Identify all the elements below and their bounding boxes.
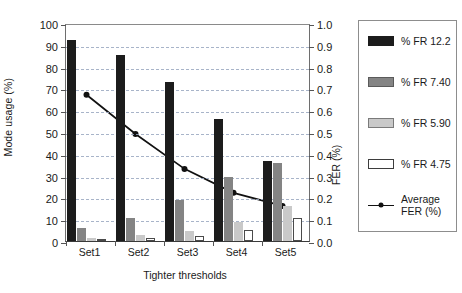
bar-set2-series-2 [136, 235, 146, 241]
y-axis-right-tick-label: 0.5 [317, 129, 332, 140]
average-fer-point-set1 [84, 92, 90, 98]
y-axis-left-tick-label: 60 [46, 107, 58, 118]
y-axis-right-tick-label: 0.1 [317, 216, 332, 227]
legend-label-0: % FR 12.2 [401, 35, 451, 47]
y-axis-left-tick-label: 10 [46, 216, 58, 227]
y-axis-left-tick [61, 90, 66, 91]
y-axis-right-tick [309, 178, 314, 179]
y-axis-left-tick [61, 221, 66, 222]
gridline [66, 69, 309, 70]
gridline [66, 47, 309, 48]
y-axis-left-tick-label: 0 [52, 238, 58, 249]
y-axis-right-tick [309, 90, 314, 91]
y-axis-left-tick-label: 80 [46, 63, 58, 74]
bar-set2-series-3 [146, 238, 156, 241]
bar-set3-series-2 [185, 231, 195, 241]
y-axis-right-tick-label: 0.2 [317, 194, 332, 205]
gridline [66, 112, 309, 113]
bar-set5-series-0 [263, 161, 273, 241]
y-axis-left-tick [61, 134, 66, 135]
legend-label-1: % FR 7.40 [401, 76, 451, 88]
y-axis-left-tick-label: 70 [46, 85, 58, 96]
plot-area: 01020304050607080901000.00.10.20.30.40.5… [65, 24, 310, 242]
legend-item-2: % FR 5.90 [368, 117, 451, 129]
bar-set5-series-3 [293, 218, 303, 241]
y-axis-right-tick [309, 243, 314, 244]
legend-label-4-line1: Average [401, 193, 440, 205]
y-axis-left-tick [61, 178, 66, 179]
legend-swatch-gray-icon [368, 77, 394, 87]
y-axis-left-title: Mode usage (%) [2, 0, 14, 78]
y-axis-right-tick [309, 199, 314, 200]
y-axis-left-tick-label: 20 [46, 194, 58, 205]
bar-set2-series-0 [116, 55, 126, 241]
x-axis-tick [262, 241, 263, 246]
bar-set3-series-0 [165, 82, 175, 241]
bar-set4-series-3 [244, 230, 254, 241]
x-axis-label-set1: Set1 [79, 246, 101, 258]
bar-set4-series-0 [214, 119, 224, 241]
bar-set1-series-1 [77, 228, 87, 241]
legend-item-0: % FR 12.2 [368, 35, 451, 47]
bar-set5-series-2 [283, 206, 293, 241]
y-axis-right-tick-label: 0.6 [317, 107, 332, 118]
bar-set1-series-2 [87, 238, 97, 241]
y-axis-right-tick [309, 134, 314, 135]
y-axis-left-tick-label: 40 [46, 150, 58, 161]
y-axis-right-tick-label: 0.4 [317, 150, 332, 161]
legend-swatch-white-icon [368, 159, 394, 169]
gridline [66, 134, 309, 135]
legend-label-3: % FR 4.75 [401, 158, 451, 170]
y-axis-right-tick-label: 0.8 [317, 63, 332, 74]
legend-item-3: % FR 4.75 [368, 158, 451, 170]
legend-swatch-lightgray-icon [368, 118, 394, 128]
y-axis-right-tick-label: 0.0 [317, 238, 332, 249]
x-axis-label-set2: Set2 [128, 246, 150, 258]
chart-legend: % FR 12.2 % FR 7.40 % FR 5.90 % FR 4.75 … [358, 20, 457, 232]
gridline [66, 156, 309, 157]
legend-line-marker-icon [368, 200, 394, 210]
bar-set2-series-1 [126, 218, 136, 241]
y-axis-right-tick [309, 25, 314, 26]
y-axis-right-tick-label: 1.0 [317, 20, 332, 31]
bar-set4-series-1 [224, 177, 234, 241]
x-axis-label-set4: Set4 [226, 246, 248, 258]
x-axis-tick [164, 241, 165, 246]
y-axis-right-tick-label: 0.7 [317, 85, 332, 96]
x-axis-tick [115, 241, 116, 246]
y-axis-left-tick-label: 100 [40, 20, 58, 31]
y-axis-left-tick [61, 199, 66, 200]
chart-figure: Mode usage (%) FER (%) Tighter threshold… [0, 0, 462, 293]
bar-set1-series-3 [97, 239, 107, 241]
y-axis-right-tick [309, 69, 314, 70]
x-axis-tick [213, 241, 214, 246]
y-axis-right-tick [309, 221, 314, 222]
x-axis-title: Tighter thresholds [60, 269, 310, 281]
x-axis-label-set5: Set5 [275, 246, 297, 258]
bar-set3-series-3 [195, 236, 205, 241]
legend-label-2: % FR 5.90 [401, 117, 451, 129]
legend-label-4: Average FER (%) [401, 193, 441, 218]
y-axis-left-tick-label: 50 [46, 129, 58, 140]
legend-item-1: % FR 7.40 [368, 76, 451, 88]
legend-swatch-dark-icon [368, 36, 394, 46]
y-axis-left-tick-label: 90 [46, 41, 58, 52]
bar-set3-series-1 [175, 200, 185, 241]
y-axis-left-tick-label: 30 [46, 172, 58, 183]
bar-set1-series-0 [67, 40, 77, 241]
bar-set4-series-2 [234, 222, 244, 241]
legend-item-4: Average FER (%) [368, 193, 441, 218]
y-axis-left-tick [61, 112, 66, 113]
legend-label-4-line2: FER (%) [401, 205, 441, 217]
y-axis-right-tick [309, 156, 314, 157]
x-axis-label-set3: Set3 [177, 246, 199, 258]
y-axis-right-tick-label: 0.3 [317, 172, 332, 183]
y-axis-right-tick [309, 47, 314, 48]
gridline [66, 90, 309, 91]
y-axis-left-tick [61, 47, 66, 48]
y-axis-right-tick-label: 0.9 [317, 41, 332, 52]
bar-set5-series-1 [273, 163, 283, 241]
y-axis-left-tick [61, 25, 66, 26]
y-axis-right-tick [309, 112, 314, 113]
x-axis-tick [66, 241, 67, 246]
